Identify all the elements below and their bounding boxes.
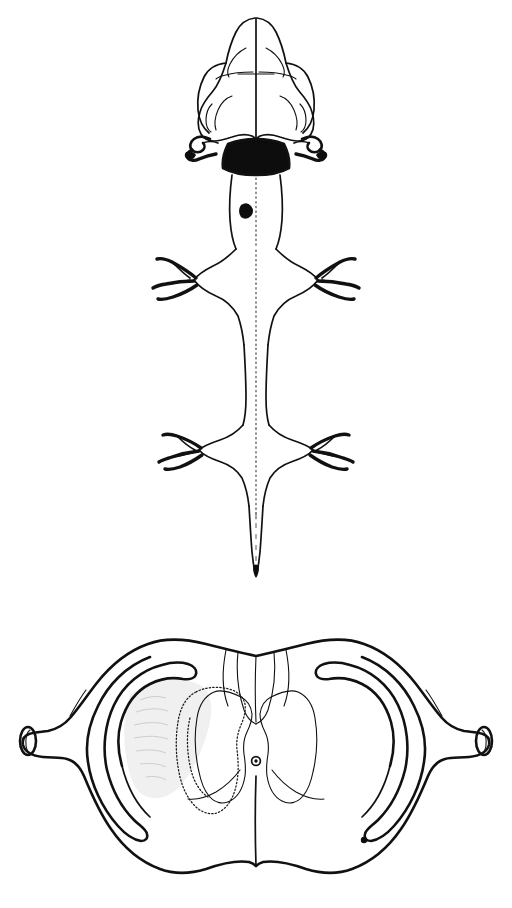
sulcus-left-lower	[215, 96, 232, 130]
thoracic-outline-right	[266, 345, 269, 425]
sulcus-right-edge	[300, 104, 306, 132]
lumbar-enlargement-right	[263, 425, 313, 506]
thalamus-right-lower	[272, 770, 324, 799]
thoracic-outline-left	[243, 345, 246, 425]
midline-fissure-upper	[255, 656, 256, 722]
thalamus-right	[260, 691, 324, 803]
panel-dorsal-view-cns	[0, 0, 512, 600]
cervical-root-left-3	[158, 285, 197, 299]
filum-outline-right	[257, 506, 263, 573]
midline-groove-right-outer	[284, 650, 289, 706]
conus-and-filum	[249, 506, 263, 578]
hemisphere-outline-right	[257, 18, 314, 141]
cervical-enlargement	[153, 249, 359, 348]
thalamus-left-lower	[188, 770, 240, 799]
filum-terminale-tip	[253, 565, 259, 579]
lumbar-enlargement-left	[199, 425, 249, 506]
filum-outline-left	[249, 506, 255, 573]
medulla-and-cervical-cord	[230, 175, 283, 249]
cerebellum	[218, 136, 294, 180]
dorsal-cns-svg	[0, 0, 512, 600]
third-ventricle-lumen	[254, 759, 257, 762]
midline-fissure-lower	[255, 776, 256, 866]
flocculus-left-arm	[203, 142, 218, 144]
cervical-enlargement-right	[268, 249, 318, 345]
cerebral-hemispheres	[198, 18, 315, 141]
flocculus-right-arm	[294, 142, 309, 144]
hemisphere-outline-left	[198, 18, 255, 141]
cervical-enlargement-left	[194, 249, 244, 345]
lesion-marker-brainstem	[239, 203, 253, 219]
cervical-nerve-roots-left	[153, 259, 197, 300]
cervical-root-right-2	[318, 281, 359, 288]
cervical-root-left-2	[153, 281, 194, 288]
lumbar-nerve-roots-right	[310, 434, 353, 469]
cervical-nerve-roots-right	[315, 259, 359, 300]
cervical-root-right-1	[316, 259, 355, 278]
panel-coronal-section	[0, 600, 512, 908]
medulla-outline-left	[230, 175, 236, 249]
stipple-shading	[124, 680, 211, 798]
notch-left-upper	[70, 690, 86, 716]
cervical-root-left-1	[157, 259, 196, 278]
midline-groove-left-outer	[223, 650, 228, 706]
lumbar-nerve-roots-left	[159, 434, 202, 469]
midline-groove-left	[237, 652, 256, 724]
sulcus-right-lower	[280, 96, 297, 130]
lateral-ventricle-right-outline	[316, 657, 425, 841]
lumbar-enlargement	[159, 425, 353, 520]
notch-right-upper	[426, 690, 442, 716]
midline-structures	[223, 650, 289, 866]
figure-page	[0, 0, 512, 908]
cervical-root-right-3	[315, 285, 354, 299]
thoracic-cord	[243, 345, 269, 428]
midline-groove-right	[256, 652, 275, 724]
coronal-section-svg	[0, 600, 512, 908]
sulcus-left-edge	[206, 104, 212, 132]
medulla-outline-right	[276, 175, 282, 249]
lesion-marker-right-ventricle	[361, 837, 367, 843]
